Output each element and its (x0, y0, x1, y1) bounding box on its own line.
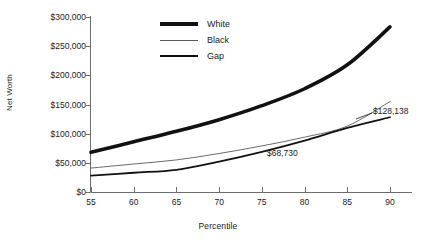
legend-item-gap: Gap (158, 48, 268, 64)
legend-item-black: Black (158, 32, 268, 48)
legend-item-label: Black (200, 35, 229, 45)
legend-swatch-icon (158, 18, 200, 30)
chart-legend: WhiteBlackGap (158, 16, 268, 64)
legend-item-label: Gap (200, 51, 224, 61)
legend-item-label: White (200, 19, 230, 29)
legend-item-white: White (158, 16, 268, 32)
data-value-annotation: $128,138 (373, 106, 408, 116)
series-line-gap (91, 117, 390, 175)
y-axis-tick-marks (85, 18, 91, 193)
legend-swatch-icon (158, 34, 200, 46)
data-value-annotation: $68,730 (267, 148, 298, 158)
legend-swatch-icon (158, 50, 200, 62)
x-axis-tick-marks (92, 187, 391, 193)
net-worth-percentile-chart: Net Worth $0$50,000$100,000$150,000$200,… (0, 0, 436, 239)
x-axis-title: Percentile (0, 221, 436, 231)
annotation-leader-lines (356, 113, 372, 119)
